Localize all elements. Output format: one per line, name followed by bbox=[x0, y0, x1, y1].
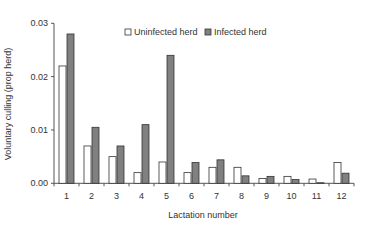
bar-infected bbox=[317, 183, 324, 184]
bar-infected bbox=[342, 173, 349, 183]
x-tick-label: 10 bbox=[286, 191, 296, 201]
x-tick-label: 12 bbox=[336, 191, 346, 201]
bars bbox=[59, 34, 349, 183]
y-tick-label: 0.02 bbox=[30, 72, 48, 82]
bar-uninfected bbox=[234, 167, 241, 183]
y-tick-label: 0.03 bbox=[30, 18, 48, 28]
legend-swatch-icon bbox=[125, 29, 131, 35]
legend-label: Infected herd bbox=[214, 27, 267, 37]
bar-chart: 0.000.010.020.03 123456789101112 Volunta… bbox=[0, 0, 373, 228]
x-tick-label: 1 bbox=[64, 191, 69, 201]
legend-label: Uninfected herd bbox=[134, 27, 198, 37]
bar-uninfected bbox=[209, 167, 216, 183]
bar-uninfected bbox=[184, 173, 191, 184]
x-axis-title: Lactation number bbox=[168, 210, 238, 220]
y-tick-label: 0.00 bbox=[30, 178, 48, 188]
bar-uninfected bbox=[159, 162, 166, 183]
bar-uninfected bbox=[109, 157, 116, 184]
bar-infected bbox=[92, 127, 99, 183]
x-tick-label: 5 bbox=[164, 191, 169, 201]
bar-uninfected bbox=[84, 146, 91, 183]
bar-infected bbox=[167, 55, 174, 183]
bar-uninfected bbox=[259, 179, 266, 184]
bar-infected bbox=[217, 160, 224, 183]
legend: Uninfected herdInfected herd bbox=[125, 27, 267, 37]
bar-infected bbox=[242, 176, 249, 183]
bar-infected bbox=[267, 176, 274, 183]
bar-uninfected bbox=[134, 173, 141, 184]
bar-uninfected bbox=[59, 66, 66, 183]
legend-swatch-icon bbox=[205, 29, 211, 35]
bar-uninfected bbox=[284, 176, 291, 183]
y-tick-label: 0.01 bbox=[30, 125, 48, 135]
y-axis: 0.000.010.020.03 bbox=[30, 18, 54, 188]
x-axis: 123456789101112 bbox=[54, 183, 354, 201]
x-tick-label: 8 bbox=[239, 191, 244, 201]
x-tick-label: 4 bbox=[139, 191, 144, 201]
bar-uninfected bbox=[334, 163, 341, 184]
y-axis-title: Voluntary culling (prop herd) bbox=[3, 48, 13, 161]
x-tick-label: 6 bbox=[189, 191, 194, 201]
bar-infected bbox=[142, 125, 149, 184]
x-tick-label: 7 bbox=[214, 191, 219, 201]
x-tick-label: 11 bbox=[312, 191, 321, 201]
bar-infected bbox=[67, 34, 74, 183]
x-tick-label: 3 bbox=[114, 191, 119, 201]
bar-infected bbox=[192, 163, 199, 184]
x-tick-label: 2 bbox=[89, 191, 94, 201]
x-tick-label: 9 bbox=[264, 191, 269, 201]
bar-infected bbox=[292, 180, 299, 184]
bar-uninfected bbox=[309, 179, 316, 183]
bar-infected bbox=[117, 146, 124, 183]
